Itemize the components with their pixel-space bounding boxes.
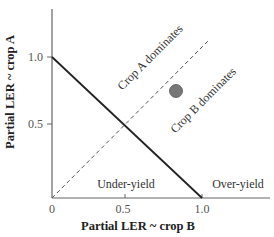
crop-b-dominates-label: Crop B dominates <box>167 64 239 136</box>
over-yield-label: Over-yield <box>212 177 264 191</box>
x-tick-label-0: 0 <box>49 202 55 216</box>
ler-diagram: 1.0 0.5 0 0.5 1.0 Partial LER ~ crop B P… <box>0 0 274 237</box>
x-tick-label-05: 0.5 <box>116 202 131 216</box>
data-point <box>170 85 183 98</box>
y-axis-label: Partial LER ~ crop A <box>3 35 17 149</box>
crop-a-dominates-label: Crop A dominates <box>115 21 186 92</box>
under-yield-label: Under-yield <box>97 177 155 191</box>
x-axis-label: Partial LER ~ crop B <box>81 219 195 233</box>
x-tick-label-1: 1.0 <box>195 202 210 216</box>
y-tick-label-05: 0.5 <box>28 117 43 131</box>
y-tick-label-1: 1.0 <box>28 50 43 64</box>
